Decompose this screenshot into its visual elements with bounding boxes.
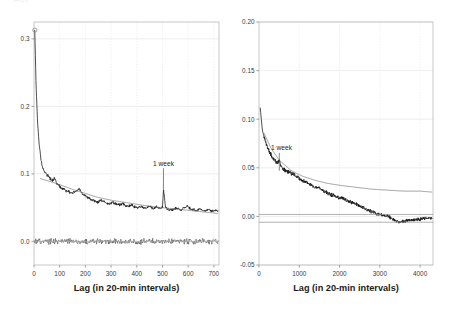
acf-figure: ACF 01002003004005006007000.00.10.20.3La… <box>0 0 452 314</box>
trend-line <box>40 179 218 214</box>
annotation-label-1-week: 1 week <box>271 144 293 151</box>
y-tick-label: -0.05 <box>240 261 255 268</box>
x-tick-label: 500 <box>157 270 168 277</box>
y-tick-label: 0.2 <box>21 103 30 110</box>
y-tick-label: 0.00 <box>242 213 255 220</box>
x-tick-label: 0 <box>257 270 261 277</box>
y-tick-label: 0.15 <box>242 67 255 74</box>
left-plot-svg: 01002003004005006007000.00.10.20.3Lag (i… <box>0 0 226 314</box>
annotation-label-1-week: 1 week <box>153 160 175 167</box>
x-tick-label: 2000 <box>332 270 347 277</box>
y-tick-label: 0.20 <box>242 18 255 25</box>
x-axis-title: Lag (in 20-min intervals) <box>74 283 180 293</box>
y-tick-label: 0.10 <box>242 116 255 123</box>
x-tick-label: 700 <box>209 270 220 277</box>
y-tick-label: 0.1 <box>21 170 30 177</box>
acf-series <box>35 30 218 212</box>
x-tick-label: 0 <box>32 270 36 277</box>
y-tick-label: 0.05 <box>242 164 255 171</box>
x-tick-label: 4000 <box>413 270 428 277</box>
x-tick-label: 100 <box>54 270 65 277</box>
chart-panel-right: 01000200030004000-0.050.000.050.100.150.… <box>226 0 452 314</box>
chart-panel-left: 01002003004005006007000.00.10.20.3Lag (i… <box>0 0 226 314</box>
y-tick-label: 0.3 <box>21 35 30 42</box>
trend-line <box>264 133 432 192</box>
x-tick-label: 1000 <box>292 270 307 277</box>
x-tick-label: 300 <box>106 270 117 277</box>
right-plot-svg: 01000200030004000-0.050.000.050.100.150.… <box>226 0 452 314</box>
x-tick-label: 200 <box>80 270 91 277</box>
x-axis-title: Lag (in 20-min intervals) <box>293 283 399 293</box>
y-tick-label: 0.0 <box>21 238 30 245</box>
x-tick-label: 600 <box>183 270 194 277</box>
x-tick-label: 400 <box>131 270 142 277</box>
x-tick-label: 3000 <box>373 270 388 277</box>
acf-series <box>260 108 432 224</box>
